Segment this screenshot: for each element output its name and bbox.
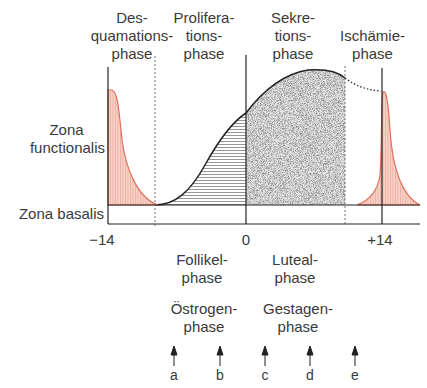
tick-label-plus-14: +14 (360, 231, 400, 249)
marker-a: a (164, 366, 184, 384)
label-estrogen-phase: Östrogen-phase (163, 300, 245, 336)
label-gestagen-phase: Gestagen-phase (258, 300, 338, 336)
label-secretion-phase: Sekre-tions-phase (263, 9, 323, 63)
label-ischemia-phase: Ischämie-phase (330, 27, 415, 63)
label-proliferation-phase: Prolifera-tions-phase (165, 9, 243, 63)
tick-label-0: 0 (236, 231, 256, 249)
marker-e: e (345, 366, 365, 384)
ischemia-dotted-curve (345, 78, 381, 91)
proliferation-region (155, 113, 246, 205)
label-zona-basalis: Zona basalis (0, 205, 104, 223)
label-luteal-phase: Luteal-phase (265, 251, 325, 287)
menstruation-peak-right (357, 92, 420, 205)
secretion-region (246, 70, 345, 205)
marker-b: b (210, 366, 230, 384)
marker-c: c (255, 366, 275, 384)
tick-label-minus-14: −14 (82, 231, 122, 249)
label-follicular-phase: Follikel-phase (168, 251, 236, 287)
menstruation-peak-left (108, 90, 158, 205)
marker-d: d (300, 366, 320, 384)
label-zona-functionalis: Zonafunctionalis (10, 121, 105, 157)
